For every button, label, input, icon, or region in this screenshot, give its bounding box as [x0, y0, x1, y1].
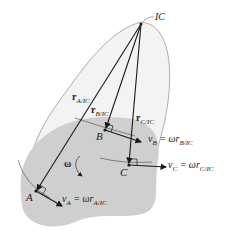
v-c-equation: vC = ωrC/IC [168, 160, 213, 173]
omega-label: ω [64, 159, 71, 169]
point-b-label: B [96, 131, 103, 142]
point-b-dot [103, 128, 106, 131]
v-a-equation: vA = ωrA/IC [62, 194, 107, 207]
diagram-canvas [0, 0, 234, 241]
point-a-label: A [26, 192, 33, 203]
r-c-ic-label: rC/IC [136, 113, 154, 126]
v-b-equation: vB = ωrB/IC [148, 134, 193, 147]
r-a-ic-label: rA/IC [72, 92, 90, 105]
r-b-ic-label: rB/IC [91, 105, 109, 118]
ic-leader [143, 17, 154, 22]
point-c-dot [127, 163, 130, 166]
ic-label: IC [155, 12, 165, 22]
ic-dot [140, 23, 143, 26]
point-a-dot [34, 189, 37, 192]
point-c-label: C [120, 167, 127, 178]
